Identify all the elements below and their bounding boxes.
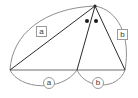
left-slant-line [10, 6, 95, 70]
geometry-diagram: a b a b [0, 0, 138, 98]
middle-slant-line [77, 6, 95, 70]
label-base-a: a [43, 77, 55, 89]
angle-dot-right [94, 19, 98, 23]
label-side-a: a [36, 26, 47, 37]
apex-point [93, 4, 96, 7]
angle-dot-left [85, 19, 89, 23]
diagram-canvas [0, 0, 138, 98]
label-base-b: b [92, 77, 104, 89]
label-side-b: b [117, 29, 128, 40]
